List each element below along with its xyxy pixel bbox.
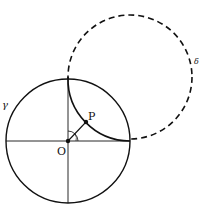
geometry-diagram: γ δ O P [0,0,207,211]
label-gamma: γ [2,99,8,110]
label-P: P [88,110,96,123]
point-O [66,139,70,143]
label-delta: δ [194,57,199,66]
label-O: O [57,145,66,158]
